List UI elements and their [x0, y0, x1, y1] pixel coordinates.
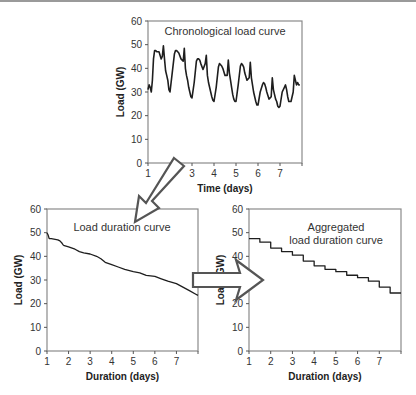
y-axis-label: Load (GW) — [115, 67, 126, 118]
load-duration-chart: 01020304050601234567Duration (days)Load … — [13, 204, 198, 383]
x-tick-label: 2 — [268, 356, 274, 367]
data-series-line — [47, 233, 198, 296]
x-tick-label: 6 — [152, 356, 158, 367]
y-tick-label: 50 — [30, 227, 42, 238]
x-tick-label: 2 — [66, 356, 72, 367]
x-axis-label: Duration (days) — [86, 371, 159, 382]
x-tick-label: 5 — [131, 356, 137, 367]
x-tick-label: 4 — [211, 168, 217, 179]
x-axis-label: Time (days) — [197, 183, 252, 194]
data-series-line — [249, 239, 401, 293]
data-series-line — [148, 46, 300, 108]
y-tick-label: 10 — [30, 322, 42, 333]
y-tick-label: 40 — [30, 251, 42, 262]
x-tick-label: 4 — [109, 356, 115, 367]
x-tick-label: 5 — [333, 356, 339, 367]
x-tick-label: 3 — [189, 168, 195, 179]
x-tick-label: 4 — [311, 356, 317, 367]
x-tick-label: 7 — [277, 168, 283, 179]
y-tick-label: 0 — [35, 346, 41, 357]
plot-frame — [148, 21, 302, 163]
x-tick-label: 3 — [290, 356, 296, 367]
x-tick-label: 1 — [246, 356, 252, 367]
y-tick-label: 60 — [232, 204, 244, 215]
chart-title: Chronological load curve — [164, 25, 285, 37]
x-tick-label: 6 — [255, 168, 261, 179]
y-tick-label: 30 — [131, 87, 143, 98]
y-tick-label: 60 — [131, 16, 143, 27]
chronological-load-chart: 01020304050601234567Time (days)Load (GW)… — [115, 16, 302, 195]
x-tick-label: 7 — [174, 356, 180, 367]
x-tick-label: 3 — [87, 356, 93, 367]
arrow-down-left-icon — [135, 158, 184, 222]
y-tick-label: 50 — [232, 227, 244, 238]
y-axis-label: Load (GW) — [13, 255, 24, 306]
chart-title: Load duration curve — [73, 221, 170, 233]
y-tick-label: 0 — [136, 158, 142, 169]
arrow-right-icon — [193, 260, 263, 300]
y-tick-label: 10 — [131, 134, 143, 145]
figure-canvas: 01020304050601234567Time (days)Load (GW)… — [0, 0, 416, 395]
x-tick-label: 7 — [377, 356, 383, 367]
y-tick-label: 20 — [131, 110, 143, 121]
y-tick-label: 40 — [131, 63, 143, 74]
y-tick-label: 0 — [237, 346, 243, 357]
x-tick-label: 1 — [145, 168, 151, 179]
chart-title: Aggregated — [308, 221, 365, 233]
y-tick-label: 60 — [30, 204, 42, 215]
y-tick-label: 30 — [30, 275, 42, 286]
x-tick-label: 5 — [233, 168, 239, 179]
x-tick-label: 1 — [44, 356, 50, 367]
y-tick-label: 10 — [232, 322, 244, 333]
y-tick-label: 20 — [30, 298, 42, 309]
x-tick-label: 6 — [355, 356, 361, 367]
y-tick-label: 50 — [131, 39, 143, 50]
x-axis-label: Duration (days) — [288, 371, 361, 382]
chart-title: load duration curve — [289, 234, 383, 246]
